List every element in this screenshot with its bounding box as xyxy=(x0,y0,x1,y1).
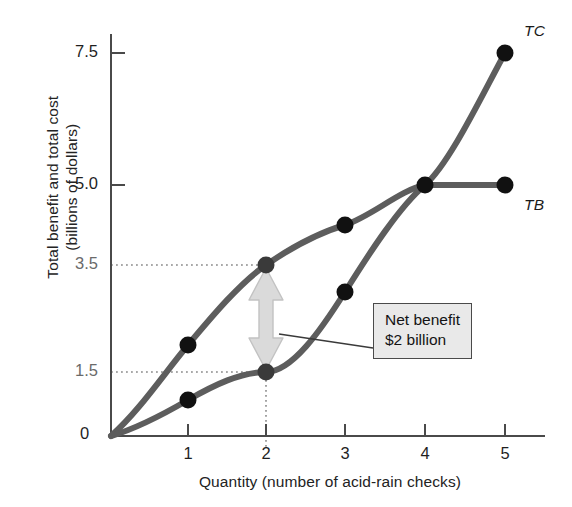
data-point-tb-3 xyxy=(337,217,354,234)
reference-lines xyxy=(111,265,266,448)
data-point-tb-4 xyxy=(417,177,434,194)
x-axis-title: Quantity (number of acid-rain checks) xyxy=(110,473,550,491)
x-tick-label-3: 3 xyxy=(325,444,365,463)
x-tick-label-1: 1 xyxy=(168,444,208,463)
data-point-tc-5 xyxy=(497,45,514,62)
x-tick-label-4: 4 xyxy=(405,444,445,463)
x-tick-label-5: 5 xyxy=(485,444,525,463)
callout-connector xyxy=(279,334,373,348)
series-label-tb: TB xyxy=(524,196,545,214)
data-point-tc-2 xyxy=(258,364,275,381)
data-point-tc-3 xyxy=(337,284,354,301)
origin-label: 0 xyxy=(80,424,89,443)
y-tick-label-7point5: 7.5 xyxy=(34,42,98,61)
data-point-tc-1 xyxy=(180,392,197,409)
chart-figure: Total benefit and total cost (billions o… xyxy=(0,0,572,507)
y-tick-label-1point5: 1.5 xyxy=(34,361,98,380)
data-point-tb-1 xyxy=(180,337,197,354)
net-benefit-arrow xyxy=(249,268,283,370)
data-point-tb-2 xyxy=(258,257,275,274)
net-benefit-callout: Net benefit $2 billion xyxy=(373,303,472,359)
series-tc-curve xyxy=(111,53,505,436)
series-label-tc: TC xyxy=(524,22,545,40)
y-tick-label-3point5: 3.5 xyxy=(34,254,98,273)
data-point-tb-5 xyxy=(497,177,514,194)
x-tick-label-2: 2 xyxy=(246,444,286,463)
y-tick-label-5point0: 5.0 xyxy=(34,174,98,193)
